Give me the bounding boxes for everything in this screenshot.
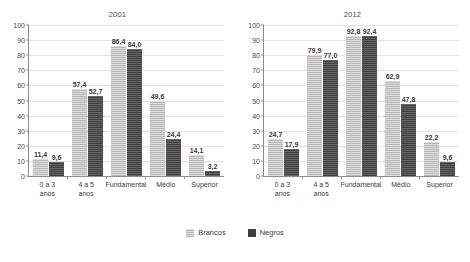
x-axis-label-line: anos <box>302 189 341 198</box>
y-axis-tick-label: 90 <box>17 37 25 44</box>
bar-value-label: 3,2 <box>208 163 218 170</box>
bar-value-label: 11,4 <box>34 151 47 158</box>
x-axis-label-0: 0 a 3anos <box>28 180 67 198</box>
bar-2012-negros-1[interactable]: 77,0 <box>323 60 338 176</box>
x-axis-label-2: Fundamental <box>341 180 382 198</box>
y-axis-tick-label: 30 <box>252 127 260 134</box>
x-axis-label-1: 4 a 5anos <box>302 180 341 198</box>
y-axis-tick-label: 20 <box>252 142 260 149</box>
y-axis-tick-label: 30 <box>17 127 25 134</box>
bar-2012-brancos-0[interactable]: 24,7 <box>268 139 283 176</box>
legend-label: Brancos <box>198 228 226 237</box>
x-axis-label-line: anos <box>67 189 106 198</box>
bar-value-label: 9,6 <box>52 154 62 161</box>
bar-2012-negros-0[interactable]: 17,9 <box>284 149 299 176</box>
bar-group: 92,892,4 <box>342 25 381 176</box>
x-axis-label-4: Superior <box>185 180 224 198</box>
y-axis-tick-label: 90 <box>252 37 260 44</box>
chart-figure: 2001 0102030405060708090100 11,49,657,45… <box>0 0 470 262</box>
y-axis-tick-label: 20 <box>17 142 25 149</box>
bar-value-label: 14,1 <box>190 147 204 154</box>
y-axis-tick-label: 50 <box>252 97 260 104</box>
x-axis-tick-mark <box>380 176 381 179</box>
bar-value-label: 24,4 <box>167 131 181 138</box>
x-axis-labels-2012: 0 a 3anos4 a 5anosFundamentalMédioSuperi… <box>263 180 459 198</box>
bar-group: 86,484,0 <box>107 25 146 176</box>
bar-2001-brancos-2[interactable]: 86,4 <box>111 46 126 176</box>
bar-2001-brancos-1[interactable]: 57,4 <box>72 89 87 176</box>
bar-value-label: 92,8 <box>347 28 361 35</box>
bar-groups-2012: 24,717,979,977,092,892,462,947,822,29,6 <box>264 25 459 176</box>
y-axis-tick-label: 70 <box>252 67 260 74</box>
y-axis-tick-label: 0 <box>256 173 260 180</box>
plot-area-2001: 0102030405060708090100 11,49,657,452,786… <box>28 25 224 177</box>
bar-group: 22,29,6 <box>420 25 459 176</box>
bar-group: 57,452,7 <box>68 25 107 176</box>
y-axis-tick-label: 80 <box>252 52 260 59</box>
legend-item-brancos[interactable]: Brancos <box>186 228 226 237</box>
x-axis-label-line: Fundamental <box>106 180 147 189</box>
x-axis-label-line: 4 a 5 <box>302 180 341 189</box>
bar-value-label: 86,4 <box>112 38 126 45</box>
bar-2001-negros-2[interactable]: 84,0 <box>127 49 142 176</box>
x-axis-label-line: Superior <box>420 180 459 189</box>
bar-value-label: 47,8 <box>402 96 416 103</box>
bar-value-label: 24,7 <box>269 131 283 138</box>
bar-2001-brancos-4[interactable]: 14,1 <box>189 155 204 176</box>
x-axis-label-line: Médio <box>146 180 185 189</box>
bar-2012-negros-2[interactable]: 92,4 <box>362 36 377 176</box>
bar-value-label: 92,4 <box>363 28 377 35</box>
y-axis-tick-label: 50 <box>17 97 25 104</box>
chart-legend: BrancosNegros <box>0 228 470 237</box>
bar-value-label: 79,9 <box>308 47 322 54</box>
y-axis-tick-label: 70 <box>17 67 25 74</box>
bar-2012-brancos-3[interactable]: 62,9 <box>385 81 400 176</box>
bar-value-label: 57,4 <box>73 81 87 88</box>
bar-2001-negros-4[interactable]: 3,2 <box>205 171 220 176</box>
y-axis-tick-label: 60 <box>252 82 260 89</box>
bar-2012-negros-3[interactable]: 47,8 <box>401 104 416 176</box>
chart-panel-2001: 2001 0102030405060708090100 11,49,657,45… <box>0 0 235 222</box>
bar-2001-negros-1[interactable]: 52,7 <box>88 96 103 176</box>
bar-2012-negros-4[interactable]: 9,6 <box>440 162 455 176</box>
bar-group: 62,947,8 <box>381 25 420 176</box>
bar-value-label: 62,9 <box>386 73 400 80</box>
bar-value-label: 22,2 <box>425 134 439 141</box>
bar-2012-brancos-4[interactable]: 22,2 <box>424 142 439 176</box>
chart-panel-2012: 2012 0102030405060708090100 24,717,979,9… <box>235 0 470 222</box>
chart-title-2001: 2001 <box>0 10 235 19</box>
bar-2001-negros-0[interactable]: 9,6 <box>49 162 64 176</box>
bar-2001-brancos-3[interactable]: 49,6 <box>150 101 165 176</box>
x-axis-label-line: 0 a 3 <box>28 180 67 189</box>
x-axis-label-line: Superior <box>185 180 224 189</box>
x-axis-labels-2001: 0 a 3anos4 a 5anosFundamentalMédioSuperi… <box>28 180 224 198</box>
legend-label: Negros <box>260 228 284 237</box>
x-axis-tick-mark <box>341 176 342 179</box>
bar-group: 79,977,0 <box>303 25 342 176</box>
x-axis-label-2: Fundamental <box>106 180 147 198</box>
bar-2012-brancos-2[interactable]: 92,8 <box>346 36 361 176</box>
x-axis-tick-mark <box>184 176 185 179</box>
y-axis-tick-label: 100 <box>248 22 260 29</box>
x-axis-label-line: 4 a 5 <box>67 180 106 189</box>
x-axis-label-4: Superior <box>420 180 459 198</box>
x-axis-tick-mark <box>67 176 68 179</box>
x-axis-label-line: 0 a 3 <box>263 180 302 189</box>
y-axis-tick-label: 0 <box>21 173 25 180</box>
legend-item-negros[interactable]: Negros <box>248 228 284 237</box>
bar-value-label: 77,0 <box>324 52 338 59</box>
y-axis-tick-label: 40 <box>17 112 25 119</box>
bar-groups-2001: 11,49,657,452,786,484,049,624,414,13,2 <box>29 25 224 176</box>
bar-group: 14,13,2 <box>185 25 224 176</box>
y-axis-tick-label: 100 <box>13 22 25 29</box>
x-axis-label-line: Médio <box>381 180 420 189</box>
y-axis-tick-label: 80 <box>17 52 25 59</box>
x-axis-label-1: 4 a 5anos <box>67 180 106 198</box>
bar-value-label: 49,6 <box>151 93 165 100</box>
bar-2001-brancos-0[interactable]: 11,4 <box>33 159 48 176</box>
bar-value-label: 9,6 <box>443 154 453 161</box>
bar-2012-brancos-1[interactable]: 79,9 <box>307 55 322 176</box>
x-axis-label-3: Médio <box>381 180 420 198</box>
bar-2001-negros-3[interactable]: 24,4 <box>166 139 181 176</box>
x-axis-label-line: Fundamental <box>341 180 382 189</box>
